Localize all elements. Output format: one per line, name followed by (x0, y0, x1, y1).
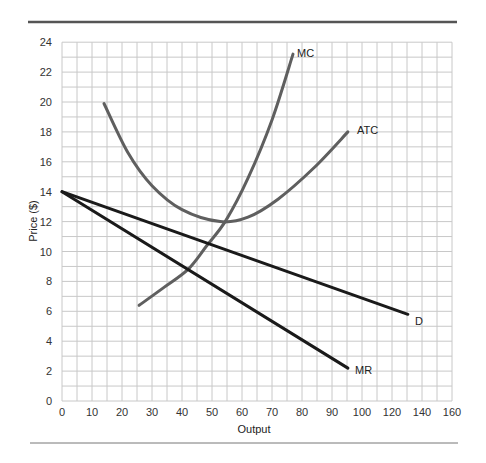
y-tick-label: 22 (40, 66, 52, 78)
y-tick-label: 2 (46, 365, 52, 377)
x-tick-label: 70 (266, 406, 278, 418)
x-tick-label: 140 (413, 406, 431, 418)
x-tick-label: 100 (353, 406, 371, 418)
x-tick-label: 120 (383, 406, 401, 418)
x-tick-label: 30 (146, 406, 158, 418)
chart-canvas: 024681012141618202224 010203040506070809… (0, 0, 486, 463)
y-tick-label: 4 (46, 335, 52, 347)
y-tick-label: 10 (40, 246, 52, 258)
mc-label: MC (297, 47, 314, 59)
x-tick-label: 90 (326, 406, 338, 418)
x-tick-label: 10 (86, 406, 98, 418)
y-tick-label: 12 (40, 216, 52, 228)
y-tick-label: 8 (46, 275, 52, 287)
y-tick-label: 14 (40, 186, 52, 198)
y-tick-label: 0 (46, 395, 52, 407)
atc-curve (104, 103, 348, 221)
curves (62, 54, 408, 368)
y-tick-label: 20 (40, 96, 52, 108)
d-label: D (415, 315, 423, 327)
x-tick-label: 60 (236, 406, 248, 418)
mc-curve (139, 54, 293, 305)
x-tick-label: 40 (176, 406, 188, 418)
y-tick-label: 24 (40, 36, 52, 48)
y-axis-label: Price ($) (27, 200, 39, 242)
y-tick-label: 16 (40, 156, 52, 168)
x-axis-label: Output (237, 423, 270, 435)
y-tick-label: 6 (46, 305, 52, 317)
atc-label: ATC (357, 124, 378, 136)
x-tick-label: 80 (296, 406, 308, 418)
x-axis-ticks: 0102030405060708090100120140160 (59, 406, 461, 418)
y-axis-ticks: 024681012141618202224 (40, 36, 52, 407)
x-tick-label: 0 (59, 406, 65, 418)
x-tick-label: 20 (116, 406, 128, 418)
x-tick-label: 50 (206, 406, 218, 418)
y-tick-label: 18 (40, 126, 52, 138)
grid (62, 42, 452, 401)
mr-label: MR (355, 364, 372, 376)
x-tick-label: 160 (443, 406, 461, 418)
